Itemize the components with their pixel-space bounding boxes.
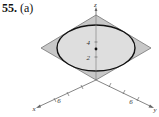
3d-figure: z 4 2 x 6 y 6 — [0, 0, 159, 117]
x-axis-arrow-icon — [36, 105, 41, 109]
center-point — [95, 48, 98, 51]
z-tick-label-4: 4 — [87, 39, 91, 47]
y-tick-label-6: 6 — [129, 98, 133, 106]
y-axis-label: y — [152, 106, 157, 114]
x-axis — [38, 80, 96, 107]
x-axis-label: x — [31, 105, 36, 113]
z-tick-label-2: 2 — [87, 54, 91, 62]
x-tick-label-6: 6 — [57, 97, 61, 105]
z-axis-label: z — [93, 1, 97, 9]
y-axis — [96, 80, 152, 107]
